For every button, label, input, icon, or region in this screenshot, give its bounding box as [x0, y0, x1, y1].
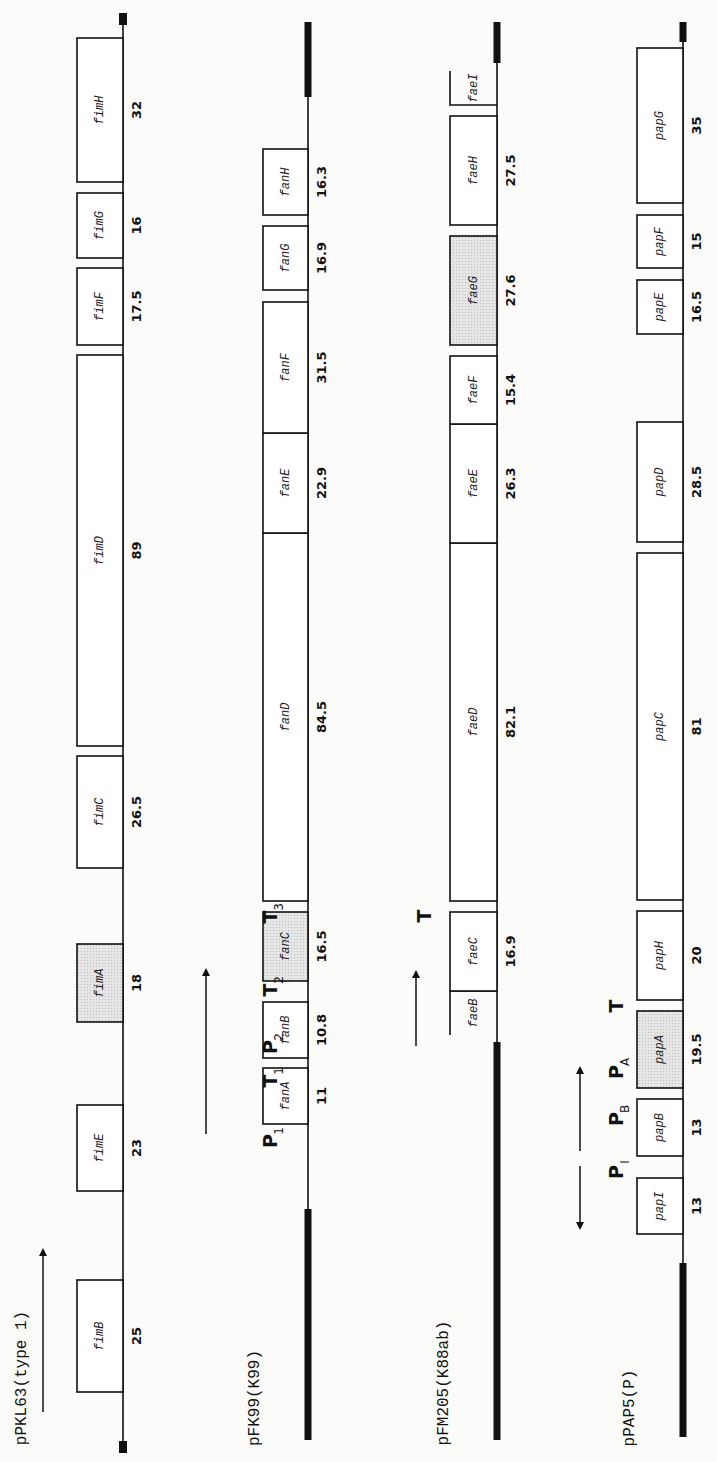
gene-name-label: faeC — [467, 936, 481, 966]
terminator-marker: T — [605, 999, 627, 1012]
gene-cluster-figure: fimB25fimE23fimA18fimC26.5fimD89fimF17.5… — [0, 0, 717, 1462]
gene-size-label: 16.9 — [314, 242, 329, 274]
operon-pPAP5: papI13papB13papA19.5papH20papC81papD28.5… — [580, 22, 704, 1446]
marker-letter: P — [605, 1165, 627, 1179]
gene-faeD: faeD82.1 — [450, 543, 518, 901]
gene-size-label: 16.5 — [314, 930, 329, 962]
operon-title: pFK99(K99) — [246, 1350, 264, 1446]
gene-name-label: papB — [653, 1113, 667, 1143]
gene-name-label: fimA — [93, 969, 107, 998]
marker-letter: P — [259, 1134, 281, 1148]
gene-size-label: 82.1 — [503, 706, 518, 738]
gene-name-label: fimH — [93, 95, 107, 125]
gene-fanH: fanH16.3 — [263, 149, 329, 215]
gene-faeI: faeI — [450, 71, 497, 105]
gene-size-label: 27.5 — [503, 154, 518, 186]
gene-name-label: papE — [653, 292, 667, 323]
gene-fimC: fimC26.5 — [77, 756, 144, 868]
vector-segment-top — [680, 22, 687, 42]
gene-faeE: faeE26.3 — [450, 424, 518, 543]
marker-letter: T — [259, 910, 281, 923]
marker-letter: T — [259, 1074, 281, 1087]
gene-size-label: 27.6 — [503, 274, 518, 306]
gene-size-label: 26.5 — [129, 796, 144, 828]
gene-size-label: 15.4 — [503, 374, 518, 406]
gene-name-label: fanH — [279, 167, 293, 197]
gene-size-label: 31.5 — [314, 351, 329, 383]
vector-segment-top — [119, 13, 127, 25]
marker-subscript: I — [618, 1160, 632, 1164]
promoter-marker: P1 — [259, 1127, 286, 1148]
gene-name-label: fimC — [93, 797, 107, 827]
gene-size-label: 23 — [129, 1139, 144, 1157]
marker-subscript: 1 — [272, 1067, 286, 1075]
gene-name-label: faeI — [467, 74, 481, 103]
gene-name-label: faeE — [467, 468, 481, 498]
gene-size-label: 22.9 — [314, 467, 329, 499]
gene-name-label: fanD — [279, 703, 293, 732]
gene-name-label: fanF — [279, 352, 293, 382]
gene-name-label: papD — [653, 468, 667, 498]
gene-fimF: fimF17.5 — [77, 268, 144, 345]
marker-letter: T — [605, 999, 627, 1012]
gene-name-label: papI — [653, 1192, 667, 1222]
gene-size-label: 13 — [689, 1118, 704, 1136]
gene-size-label: 11 — [314, 1087, 329, 1105]
gene-size-label: 16 — [129, 216, 144, 234]
gene-papG: papG35 — [637, 48, 704, 203]
gene-name-label: fanG — [279, 243, 293, 273]
gene-fimB: fimB25 — [77, 1280, 144, 1392]
gene-name-label: faeF — [467, 375, 481, 405]
operon-title: pPAP5(P) — [621, 1370, 639, 1447]
marker-letter: P — [259, 1040, 281, 1054]
gene-name-label: papG — [653, 110, 667, 141]
gene-size-label: 15 — [689, 232, 704, 250]
gene-faeG: faeG27.6 — [450, 236, 518, 345]
gene-name-label: faeB — [467, 999, 481, 1028]
gene-size-label: 13 — [689, 1197, 704, 1215]
gene-size-label: 16.3 — [314, 166, 329, 198]
gene-size-label: 17.5 — [129, 290, 144, 322]
gene-fimH: fimH32 — [77, 38, 144, 182]
gene-papA: papA19.5 — [637, 1011, 704, 1088]
marker-subscript: 3 — [272, 903, 286, 911]
gene-size-label: 84.5 — [314, 701, 329, 733]
marker-letter: T — [413, 909, 435, 922]
marker-subscript: A — [618, 1057, 632, 1066]
gene-name-label: faeD — [467, 708, 481, 737]
gene-size-label: 35 — [689, 116, 704, 134]
gene-size-label: 28.5 — [689, 466, 704, 498]
gene-size-label: 19.5 — [689, 1033, 704, 1065]
gene-fimA: fimA18 — [77, 944, 144, 1022]
gene-faeH: faeH27.5 — [450, 116, 518, 225]
operon-pPKL63: fimB25fimE23fimA18fimC26.5fimD89fimF17.5… — [13, 13, 144, 1453]
gene-name-label: fanC — [279, 931, 293, 961]
gene-faeB: faeB — [450, 991, 497, 1035]
gene-size-label: 20 — [689, 946, 704, 964]
marker-subscript: 1 — [272, 1127, 286, 1135]
gene-fanG: fanG16.9 — [263, 226, 329, 290]
operon-title: pPKL63(type 1) — [13, 1311, 31, 1445]
operon-pFK99: fanA11fanB10.8fanC16.5fanD84.5fanE22.9fa… — [206, 22, 329, 1446]
gene-fimD: fimD89 — [77, 355, 144, 746]
gene-name-label: papA — [653, 1035, 667, 1065]
promoter-marker: PA — [605, 1057, 632, 1079]
gene-fanE: fanE22.9 — [263, 433, 329, 533]
gene-papD: papD28.5 — [637, 422, 704, 542]
promoter-marker: PI — [605, 1160, 632, 1179]
gene-papB: papB13 — [637, 1099, 704, 1156]
gene-size-label: 89 — [129, 541, 144, 559]
gene-name-label: fimF — [93, 291, 107, 321]
gene-name-label: papF — [653, 226, 667, 257]
marker-subscript: B — [618, 1105, 632, 1113]
gene-size-label: 16.5 — [689, 291, 704, 323]
gene-name-label: papC — [653, 711, 667, 742]
gene-papI: papI13 — [637, 1178, 704, 1234]
gene-size-label: 32 — [129, 101, 144, 119]
gene-fanF: fanF31.5 — [263, 302, 329, 433]
vector-segment-bottom — [680, 1263, 687, 1437]
gene-papH: papH20 — [637, 911, 704, 1000]
vector-segment-bottom — [494, 1042, 501, 1440]
gene-size-label: 25 — [129, 1327, 144, 1345]
gene-fanD: fanD84.5 — [263, 533, 329, 901]
